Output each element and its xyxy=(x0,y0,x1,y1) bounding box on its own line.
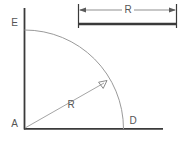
diagram-canvas: R E A D R xyxy=(0,0,189,144)
radius-leader-line xyxy=(25,83,104,128)
radius-inner-label: R xyxy=(67,99,74,110)
radius-arrowhead xyxy=(99,81,107,89)
vertex-label-d: D xyxy=(129,115,136,126)
geometry-drawing: R E A D R xyxy=(0,0,189,144)
radius-dimension-group: R xyxy=(79,4,177,28)
quarter-circle-arc xyxy=(25,30,124,129)
vertex-label-e: E xyxy=(11,17,18,28)
vertex-label-a: A xyxy=(11,118,18,129)
dimension-left-arrowhead xyxy=(79,8,86,13)
dimension-right-arrowhead xyxy=(169,8,176,13)
dimension-radius-label: R xyxy=(124,4,131,15)
